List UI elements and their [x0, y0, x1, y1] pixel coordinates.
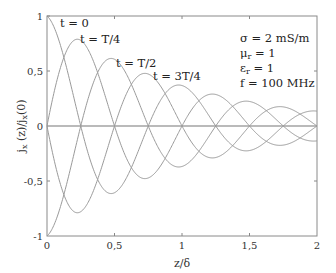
- parameter-annotation: σ = 2 mS/m μr = 1 εr = 1 f = 100 MHz: [240, 31, 315, 90]
- frequency-value: f = 100 MHz: [240, 76, 315, 90]
- curve-label-t0: t = 0: [60, 16, 89, 30]
- y-axis-label: jx (z)/jx(0): [15, 99, 29, 154]
- x-axis-label: z/δ: [174, 257, 191, 270]
- x-tick-label: 1: [179, 240, 185, 251]
- x-axis: 0 0,5 1 1,5 2: [44, 16, 320, 251]
- y-tick-label: -0,5: [24, 176, 43, 187]
- chart: 1 0,5 0 -0,5 -1 0 0,5 1 1,5 2 z/δ jx (z)…: [0, 0, 336, 273]
- y-tick-label: 0: [37, 121, 43, 132]
- x-tick-label: 0,5: [107, 240, 123, 251]
- x-tick-label: 1,5: [242, 240, 258, 251]
- x-tick-label: 0: [44, 240, 50, 251]
- y-tick-label: 0,5: [27, 66, 43, 77]
- eps-value: εr = 1: [240, 61, 274, 76]
- curve-label-tT4: t = T/4: [80, 32, 120, 46]
- curve-3: [47, 73, 317, 212]
- sigma-value: σ = 2 mS/m: [240, 31, 309, 45]
- curve-label-t3T4: t = 3T/4: [153, 69, 201, 83]
- curve-label-tT2: t = T/2: [116, 56, 156, 70]
- x-tick-label: 2: [314, 240, 320, 251]
- y-tick-label: 1: [37, 11, 43, 22]
- curve-1: [47, 39, 317, 178]
- y-tick-label: -1: [33, 231, 43, 242]
- mu-value: μr = 1: [240, 46, 276, 61]
